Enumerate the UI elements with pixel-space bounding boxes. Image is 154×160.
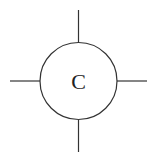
diagram-canvas: C	[0, 0, 154, 160]
node-label: C	[71, 69, 86, 94]
